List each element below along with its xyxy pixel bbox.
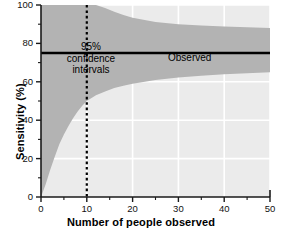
x-tick-label-20: 20 (120, 203, 146, 214)
x-tick-label-40: 40 (211, 203, 237, 214)
y-tick-label-100: 100 (7, 0, 33, 10)
sensitivity-confidence-interval-chart: 020406080100 01020304050 Sensitivity (%)… (0, 0, 282, 235)
ci-label-line-1: 95% (55, 41, 127, 53)
x-tick-label-30: 30 (165, 203, 191, 214)
confidence-interval-label: 95% confidence intervals (55, 41, 127, 76)
y-tick-label-0: 0 (7, 191, 33, 202)
x-tick-label-0: 0 (28, 203, 54, 214)
x-tick-label-50: 50 (257, 203, 282, 214)
ci-label-line-3: intervals (55, 64, 127, 76)
x-tick-label-10: 10 (74, 203, 100, 214)
observed-label: Observed (168, 52, 211, 63)
x-axis-title: Number of people observed (0, 216, 282, 228)
y-tick-label-80: 80 (7, 37, 33, 48)
ci-label-line-2: confidence (55, 53, 127, 65)
y-axis-title: Sensitivity (%) (14, 83, 26, 160)
chart-canvas (0, 0, 282, 235)
